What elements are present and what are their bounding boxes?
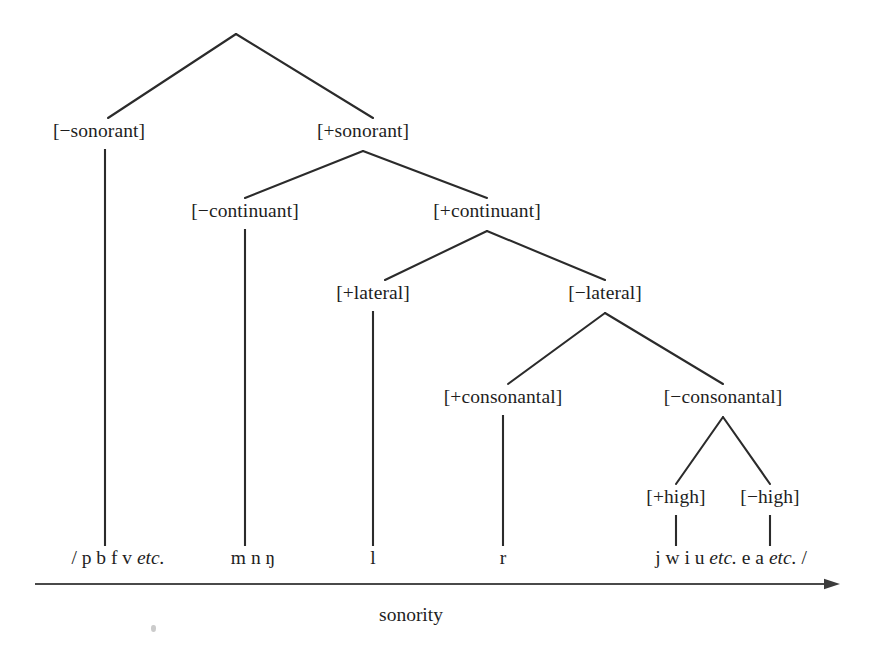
branch-plus_sonorant-to-plus_continuant — [363, 151, 487, 198]
node-plus-sonorant: [+sonorant] — [317, 121, 409, 141]
node-plus-high: [+high] — [646, 487, 705, 507]
branch-root-to-minus_sonorant — [108, 34, 236, 118]
branch-minus_consonantal-to-plus_high — [676, 417, 723, 484]
sonority-axis-label: sonority — [379, 605, 443, 625]
branch-root-to-plus_sonorant — [236, 34, 373, 118]
node-minus-sonorant: [−sonorant] — [53, 121, 145, 141]
terminal-symbols: j w i u — [655, 547, 709, 568]
terminal-symbols: r — [500, 547, 507, 568]
terminal-lateral: l — [370, 548, 375, 568]
node-minus-high: [−high] — [740, 487, 799, 507]
terminal-obstruents: / p b f v etc. — [71, 548, 164, 568]
scan-speck-artifact — [151, 625, 156, 632]
terminal-etc: etc. — [137, 547, 165, 568]
node-plus-consonantal: [+consonantal] — [444, 387, 563, 407]
terminal-symbols: e a — [737, 547, 769, 568]
terminal-vowels-glides: j w i u etc. e a etc. / — [655, 548, 807, 568]
node-minus-consonantal: [−consonantal] — [664, 387, 783, 407]
branch-minus_consonantal-to-minus_high — [723, 417, 770, 484]
branch-plus_sonorant-to-minus_continuant — [245, 151, 363, 198]
terminal-symbols: / — [797, 547, 807, 568]
terminal-symbols: l — [370, 547, 375, 568]
branch-minus_lateral-to-plus_consonantal — [508, 313, 605, 384]
node-plus-continuant: [+continuant] — [433, 201, 541, 221]
node-minus-continuant: [−continuant] — [191, 201, 299, 221]
terminal-etc: etc. — [769, 547, 797, 568]
terminal-symbols: / p b f v — [71, 547, 137, 568]
sonority-axis — [35, 579, 840, 589]
branch-lines — [108, 34, 770, 484]
terminal-nasals: m n ŋ — [231, 548, 275, 568]
arrowhead-icon — [824, 579, 840, 589]
terminal-etc: etc. — [709, 547, 737, 568]
branch-plus_continuant-to-plus_lateral — [385, 231, 487, 280]
sonority-hierarchy-diagram: [−sonorant][+sonorant][−continuant][+con… — [0, 0, 883, 663]
branch-plus_continuant-to-minus_lateral — [487, 231, 605, 280]
terminal-symbols: m n ŋ — [231, 547, 275, 568]
node-minus-lateral: [−lateral] — [568, 283, 642, 303]
node-plus-lateral: [+lateral] — [336, 283, 410, 303]
terminal-rhotic: r — [500, 548, 507, 568]
branch-minus_lateral-to-minus_consonantal — [605, 313, 723, 384]
